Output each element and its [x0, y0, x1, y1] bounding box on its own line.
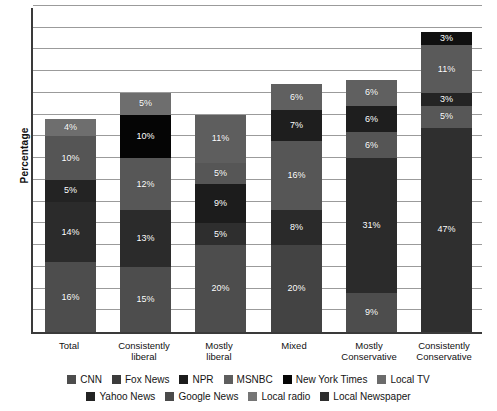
bar-group[interactable]: 15%13%12%10%5%	[120, 93, 171, 332]
legend-item[interactable]: NPR	[179, 374, 213, 385]
bar-segment-label: 14%	[61, 228, 79, 237]
legend-item[interactable]: Local Newspaper	[320, 391, 410, 402]
bar-segment[interactable]: 13%	[120, 210, 171, 267]
bar-segment-label: 11%	[438, 65, 455, 74]
plot-area: 16%14%5%10%4%15%13%12%10%5%20%5%9%5%11%2…	[31, 8, 482, 334]
bar-segment[interactable]: 11%	[195, 115, 246, 163]
bar-segment[interactable]: 10%	[45, 136, 96, 179]
legend-swatch-icon	[320, 392, 329, 401]
bar-segment-label: 5%	[64, 186, 77, 195]
legend-swatch-icon	[377, 375, 386, 384]
x-axis-label-line: Consistently	[398, 340, 490, 351]
bar-segment-label: 12%	[136, 180, 154, 189]
bar-segment-label: 20%	[287, 284, 305, 293]
legend-swatch-icon	[224, 375, 233, 384]
legend-swatch-icon	[86, 392, 95, 401]
x-axis-label-line: Conservative	[398, 351, 490, 362]
legend-item[interactable]: Local radio	[248, 391, 310, 402]
bar-group[interactable]: 16%14%5%10%4%	[45, 119, 96, 332]
x-axis-label-line: liberal	[173, 351, 265, 362]
bar-segment[interactable]: 8%	[271, 210, 322, 245]
legend-label: Fox News	[125, 374, 169, 385]
y-axis-title: Percentage	[19, 86, 30, 226]
bar-segment-label: 16%	[287, 171, 305, 180]
bar-segment-label: 7%	[290, 121, 303, 130]
bar-segment-label: 6%	[290, 93, 303, 102]
bar-segment-label: 13%	[136, 234, 154, 243]
bar-segment[interactable]: 20%	[271, 245, 322, 332]
bar-segment[interactable]: 12%	[120, 158, 171, 210]
bar-segment[interactable]: 11%	[421, 45, 472, 93]
bar-segment[interactable]: 5%	[195, 223, 246, 245]
bar-segment-label: 3%	[440, 95, 453, 104]
legend-item[interactable]: New York Times	[283, 374, 368, 385]
bar-segment[interactable]: 6%	[346, 106, 397, 132]
bar-segment[interactable]: 20%	[195, 245, 246, 332]
legend-label: Google News	[178, 391, 238, 402]
bar-segment[interactable]: 16%	[45, 262, 96, 332]
bar-segment[interactable]: 5%	[421, 106, 472, 128]
bar-group[interactable]: 47%5%3%11%3%	[421, 32, 472, 332]
bar-segment-label: 9%	[365, 308, 378, 317]
bar-segment-label: 20%	[211, 284, 229, 293]
bar-segment[interactable]: 6%	[346, 80, 397, 106]
legend-label: MSNBC	[237, 374, 273, 385]
bar-group[interactable]: 20%8%16%7%6%	[271, 84, 322, 332]
x-axis-labels: TotalConsistentlyliberalMostlyliberalMix…	[31, 338, 482, 368]
legend-label: CNN	[80, 374, 102, 385]
bar-segment-label: 10%	[136, 132, 154, 141]
legend-swatch-icon	[67, 375, 76, 384]
bar-segment-label: 3%	[440, 34, 453, 43]
bar-segment[interactable]: 47%	[421, 128, 472, 332]
bar-segment[interactable]: 5%	[120, 93, 171, 115]
bar-segment-label: 10%	[61, 154, 79, 163]
bar-segment[interactable]: 16%	[271, 141, 322, 211]
legend-label: Yahoo News	[99, 391, 155, 402]
bar-segment-label: 6%	[365, 88, 378, 97]
legend-item[interactable]: MSNBC	[224, 374, 273, 385]
stacked-bar-chart: Percentage 16%14%5%10%4%15%13%12%10%5%20…	[0, 0, 497, 411]
bars-layer: 16%14%5%10%4%15%13%12%10%5%20%5%9%5%11%2…	[33, 8, 482, 332]
legend-item[interactable]: Google News	[165, 391, 238, 402]
gridline	[33, 5, 482, 6]
legend-row: Yahoo NewsGoogle NewsLocal radioLocal Ne…	[0, 388, 497, 405]
bar-segment[interactable]: 6%	[271, 84, 322, 110]
bar-segment[interactable]: 31%	[346, 158, 397, 293]
legend-label: Local TV	[390, 374, 429, 385]
legend-item[interactable]: Yahoo News	[86, 391, 155, 402]
bar-segment[interactable]: 9%	[346, 293, 397, 332]
legend-label: NPR	[192, 374, 213, 385]
bar-segment[interactable]: 5%	[45, 180, 96, 202]
bar-segment-label: 6%	[365, 115, 378, 124]
legend-label: Local Newspaper	[333, 391, 410, 402]
legend-item[interactable]: Local TV	[377, 374, 429, 385]
bar-segment-label: 16%	[61, 293, 79, 302]
bar-segment[interactable]: 9%	[195, 184, 246, 223]
legend-label: New York Times	[296, 374, 368, 385]
bar-segment[interactable]: 4%	[45, 119, 96, 136]
bar-segment[interactable]: 3%	[421, 32, 472, 45]
bar-group[interactable]: 9%31%6%6%6%	[346, 80, 397, 332]
bar-segment-label: 47%	[437, 225, 455, 234]
bar-segment[interactable]: 5%	[195, 163, 246, 185]
bar-segment[interactable]: 10%	[120, 115, 171, 158]
bar-segment[interactable]: 6%	[346, 132, 397, 158]
bar-segment[interactable]: 15%	[120, 267, 171, 332]
legend-row: CNNFox NewsNPRMSNBCNew York TimesLocal T…	[0, 371, 497, 388]
bar-segment-label: 4%	[64, 123, 77, 132]
bar-segment[interactable]: 3%	[421, 93, 472, 106]
bar-segment-label: 5%	[139, 99, 152, 108]
bar-segment-label: 5%	[214, 169, 227, 178]
legend-item[interactable]: Fox News	[112, 374, 169, 385]
legend-swatch-icon	[283, 375, 292, 384]
legend-item[interactable]: CNN	[67, 374, 102, 385]
chart-legend: CNNFox NewsNPRMSNBCNew York TimesLocal T…	[0, 371, 497, 405]
bar-segment[interactable]: 14%	[45, 202, 96, 263]
bar-segment[interactable]: 7%	[271, 110, 322, 140]
legend-swatch-icon	[248, 392, 257, 401]
x-axis-label: ConsistentlyConservative	[398, 340, 490, 362]
bar-segment-label: 11%	[212, 134, 229, 143]
bar-segment-label: 31%	[362, 221, 380, 230]
bar-group[interactable]: 20%5%9%5%11%	[195, 115, 246, 332]
bar-segment-label: 5%	[440, 112, 453, 121]
